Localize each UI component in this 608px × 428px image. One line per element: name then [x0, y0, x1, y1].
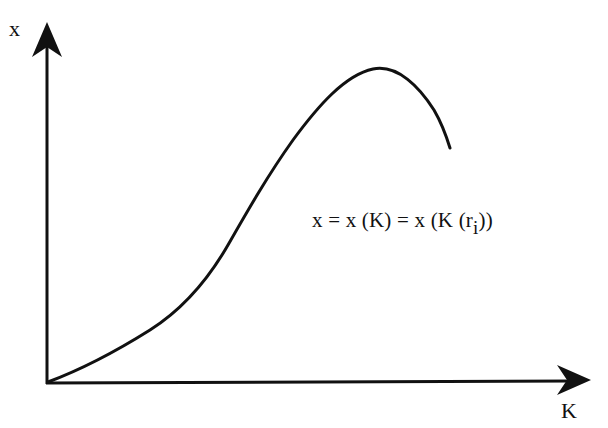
equation-annotation: x = x (K) = x (K (ri)) — [312, 210, 493, 231]
equation-suffix: )) — [479, 208, 493, 232]
y-axis-label: x — [9, 18, 20, 40]
equation-prefix: x = x (K) = x (K (r — [312, 208, 473, 232]
diagram-canvas — [0, 0, 608, 428]
x-axis-line — [46, 381, 572, 383]
x-axis-label: K — [561, 400, 577, 422]
